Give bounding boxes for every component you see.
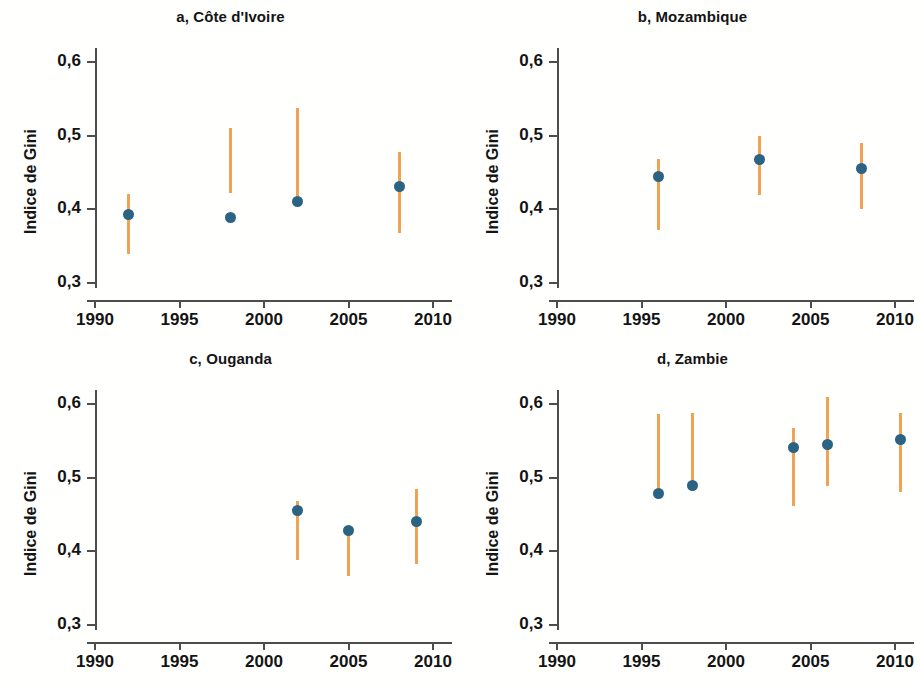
y-axis-tick [87,624,95,626]
y-axis-tick-label: 0,3 [33,272,81,292]
plot-area-b: 0,30,40,50,619901995200020052010Indice d… [462,0,923,342]
x-axis-tick [810,642,812,650]
x-axis-tick [556,300,558,308]
x-axis-tick [641,300,643,308]
panel-mozambique: b, Mozambique 0,30,40,50,619901995200020… [462,0,923,342]
y-axis-tick [87,550,95,552]
x-axis-tick [348,642,350,650]
x-axis-tick-label: 2005 [771,652,851,672]
x-axis-tick [94,300,96,308]
y-axis-tick [549,477,557,479]
y-axis-label: Indice de Gini [22,129,40,234]
y-axis-tick-label: 0,4 [495,198,543,218]
x-axis-tick [432,642,434,650]
x-axis-tick [641,642,643,650]
y-axis-tick [549,403,557,405]
data-point-marker [754,154,765,165]
y-axis-tick [87,282,95,284]
confidence-interval-bar [899,413,902,493]
confidence-interval-bar [296,108,299,206]
x-axis-tick-label: 2000 [224,652,304,672]
data-point-marker [653,171,664,182]
x-axis-tick-label: 2010 [393,652,473,672]
x-axis-tick [432,300,434,308]
x-axis-tick-label: 1995 [602,652,682,672]
y-axis-tick [87,477,95,479]
data-point-marker [292,196,303,207]
y-axis-line [557,48,559,288]
x-axis-tick-label: 1995 [140,652,220,672]
y-axis-tick [87,403,95,405]
data-point-marker [292,505,303,516]
y-axis-tick [87,208,95,210]
panel-cote-divoire: a, Côte d'Ivoire 0,30,40,50,619901995200… [0,0,461,342]
y-axis-label: Indice de Gini [484,471,502,576]
data-point-marker [856,163,867,174]
y-axis-tick [549,624,557,626]
x-axis-tick [179,300,181,308]
x-axis-tick-label: 1995 [140,310,220,330]
confidence-interval-bar [691,413,694,486]
data-point-marker [394,181,405,192]
data-point-marker [687,480,698,491]
panel-ouganda: c, Ouganda 0,30,40,50,619901995200020052… [0,342,461,684]
y-axis-tick-label: 0,5 [495,467,543,487]
x-axis-tick-label: 2000 [686,310,766,330]
confidence-interval-bar [415,489,418,563]
y-axis-tick-label: 0,3 [495,614,543,634]
x-axis-line [549,300,914,302]
y-axis-tick [549,282,557,284]
y-axis-tick [549,61,557,63]
x-axis-tick [725,642,727,650]
data-point-marker [123,209,134,220]
x-axis-tick-label: 2010 [393,310,473,330]
y-axis-tick-label: 0,6 [33,51,81,71]
x-axis-line [87,642,452,644]
x-axis-tick-label: 1990 [55,310,135,330]
x-axis-line [87,300,452,302]
y-axis-tick-label: 0,4 [495,540,543,560]
y-axis-tick-label: 0,6 [33,393,81,413]
x-axis-tick [263,642,265,650]
y-axis-label: Indice de Gini [484,129,502,234]
y-axis-tick [87,135,95,137]
y-axis-tick-label: 0,6 [495,393,543,413]
plot-area-d: 0,30,40,50,619901995200020052010Indice d… [462,342,923,684]
x-axis-tick [179,642,181,650]
figure-gini-panels: a, Côte d'Ivoire 0,30,40,50,619901995200… [0,0,923,684]
plot-area-c: 0,30,40,50,619901995200020052010Indice d… [0,342,461,684]
confidence-interval-bar [758,136,761,195]
y-axis-line [557,390,559,630]
x-axis-tick-label: 2005 [309,310,389,330]
y-axis-tick-label: 0,4 [33,198,81,218]
confidence-interval-bar [860,143,863,209]
y-axis-tick [549,208,557,210]
confidence-interval-bar [347,529,350,575]
y-axis-line [95,48,97,288]
y-axis-tick [549,550,557,552]
data-point-marker [653,488,664,499]
data-point-marker [411,516,422,527]
y-axis-tick-label: 0,6 [495,51,543,71]
y-axis-tick-label: 0,4 [33,540,81,560]
x-axis-tick-label: 1995 [602,310,682,330]
confidence-interval-bar [792,428,795,505]
y-axis-tick-label: 0,5 [495,125,543,145]
x-axis-tick-label: 1990 [517,310,597,330]
data-point-marker [225,212,236,223]
confidence-interval-bar [657,414,660,494]
y-axis-tick-label: 0,3 [495,272,543,292]
x-axis-tick-label: 2000 [686,652,766,672]
x-axis-tick [725,300,727,308]
y-axis-tick-label: 0,5 [33,125,81,145]
x-axis-tick [894,300,896,308]
confidence-interval-bar [657,159,660,230]
data-point-marker [343,525,354,536]
x-axis-tick [94,642,96,650]
x-axis-tick-label: 2010 [855,310,923,330]
plot-area-a: 0,30,40,50,619901995200020052010Indice d… [0,0,461,342]
y-axis-tick-label: 0,3 [33,614,81,634]
confidence-interval-bar [398,152,401,233]
y-axis-line [95,390,97,630]
x-axis-tick-label: 2010 [855,652,923,672]
